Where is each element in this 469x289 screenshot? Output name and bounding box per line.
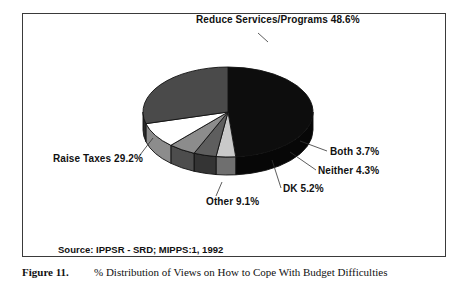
figure-caption: Figure 11.% Distribution of Views on How… [22, 266, 462, 278]
slice-label-other: Other 9.1% [206, 196, 259, 207]
figure-caption-text: % Distribution of Views on How to Cope W… [94, 266, 387, 278]
slice-label-reduce-services: Reduce Services/Programs 48.6% [196, 14, 360, 25]
figure-number: Figure 11. [22, 266, 94, 278]
source-note: Source: IPPSR - SRD; MIPPS:1, 1992 [58, 244, 223, 255]
slice-label-raise-taxes: Raise Taxes 29.2% [53, 153, 143, 164]
slice-label-dk: DK 5.2% [283, 183, 324, 194]
chart-frame-box [22, 13, 446, 257]
slice-label-both: Both 3.7% [330, 146, 379, 157]
slice-label-neither: Neither 4.3% [318, 165, 379, 176]
figure-container: Reduce Services/Programs 48.6% Both 3.7%… [0, 0, 469, 289]
